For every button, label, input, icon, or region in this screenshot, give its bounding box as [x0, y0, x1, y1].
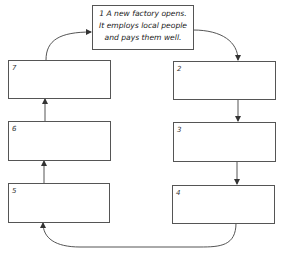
step-number: 5: [12, 187, 16, 195]
step-number: 3: [177, 126, 181, 134]
step-box-6[interactable]: 6: [8, 121, 111, 161]
step-box-4[interactable]: 4: [172, 185, 275, 224]
step-number: 6: [12, 125, 16, 133]
step-box-7[interactable]: 7: [8, 60, 111, 99]
step-number: 7: [12, 64, 16, 72]
step-number: 2: [177, 65, 181, 73]
arrow-4-to-5: [43, 223, 236, 247]
step-box-5[interactable]: 5: [8, 183, 110, 223]
step-number: 4: [176, 189, 180, 197]
arrow-7-to-1: [46, 32, 91, 60]
step-box-3[interactable]: 3: [173, 122, 276, 162]
step-1-text: 1 A new factory opens. It employs local …: [93, 8, 193, 44]
arrow-1-to-2: [193, 30, 238, 60]
step-box-2[interactable]: 2: [173, 61, 276, 100]
step-box-1: 1 A new factory opens. It employs local …: [92, 5, 194, 50]
